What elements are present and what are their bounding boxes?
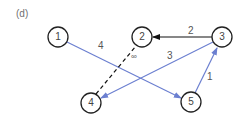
edge-4-2-weight: ∞ xyxy=(131,51,137,63)
edge-5-to-3 xyxy=(195,48,217,93)
edge-3-2-weight: 2 xyxy=(188,25,194,37)
graph-canvas xyxy=(0,0,251,124)
graph-diagram: (d) 1 2 3 4 5 4 2 3 ∞ 1 xyxy=(0,0,251,124)
edge-1-5-weight: 4 xyxy=(98,40,104,52)
node-1-label: 1 xyxy=(48,30,68,44)
node-3-label: 3 xyxy=(212,30,232,44)
edge-1-to-5 xyxy=(67,42,181,98)
node-5-label: 5 xyxy=(181,95,201,109)
edge-4-to-2 xyxy=(96,46,136,94)
edge-3-4-weight: 3 xyxy=(167,50,173,62)
edge-5-3-weight: 1 xyxy=(207,71,213,83)
node-4-label: 4 xyxy=(81,96,101,110)
node-2-label: 2 xyxy=(132,30,152,44)
